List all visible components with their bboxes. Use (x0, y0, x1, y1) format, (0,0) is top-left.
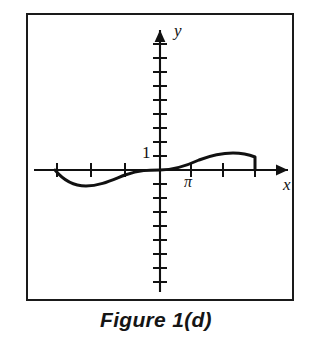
x-axis-label: x (283, 176, 291, 193)
x-pi-label: π (184, 174, 192, 190)
y-unit-label: 1 (142, 144, 151, 161)
figure-caption: Figure 1(d) (0, 308, 312, 332)
y-axis-arrowhead (155, 30, 166, 42)
coordinate-plot (0, 0, 312, 310)
y-axis-label: y (174, 22, 182, 39)
x-axis-arrowhead (276, 165, 288, 176)
figure-page: y x 1 π Figure 1(d) (0, 0, 312, 344)
